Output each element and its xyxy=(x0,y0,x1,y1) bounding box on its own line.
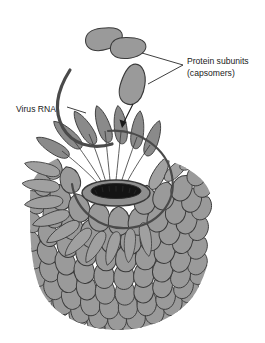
free-capsomers xyxy=(83,23,149,107)
protein-subunits-label-line1: Protein subunits xyxy=(187,56,249,66)
virus-diagram-svg: Protein subunits (capsomers) Virus RNA xyxy=(0,0,265,343)
helix-opening xyxy=(82,180,150,206)
leader-to-capsomer-upper xyxy=(142,53,183,65)
virus-rna-label: Virus RNA xyxy=(16,104,56,114)
leader-to-capsomer-middle xyxy=(148,65,183,84)
virus-assembly-figure: Protein subunits (capsomers) Virus RNA xyxy=(0,0,265,343)
capsomer-middle xyxy=(117,62,149,107)
protein-subunits-label-line2: (capsomers) xyxy=(187,68,235,78)
